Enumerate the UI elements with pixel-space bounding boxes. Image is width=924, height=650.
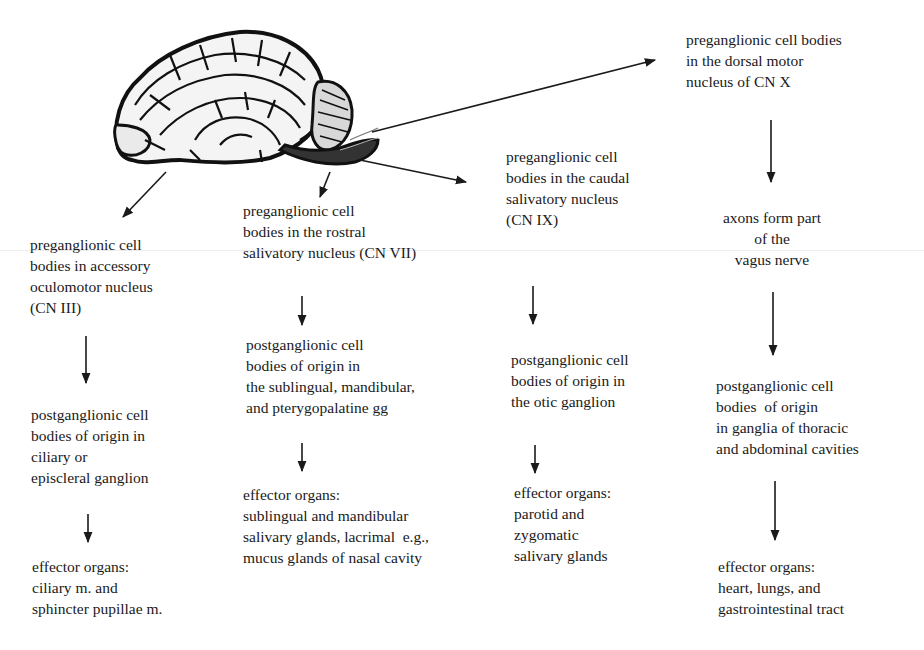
cn-iii-postganglionic-text: postganglionic cell bodies of origin in … [31, 404, 149, 488]
arrow-brain-to-cn-vii [320, 172, 330, 197]
cn-x-effector-text: effector organs: heart, lungs, and gastr… [718, 556, 844, 619]
diagram-graphics [0, 0, 924, 650]
cn-x-postganglionic-text: postganglionic cell bodies of origin in … [716, 375, 859, 459]
cn-ix-preganglionic-text: preganglionic cell bodies in the caudal … [506, 146, 630, 230]
cn-vii-postganglionic-text: postganglionic cell bodies of origin in … [246, 334, 415, 418]
arrow-brain-to-cn-iii [123, 172, 166, 217]
cn-iii-preganglionic-text: preganglionic cell bodies in accessory o… [30, 234, 153, 318]
cn-x-intermediate-text: axons form part of the vagus nerve [712, 207, 832, 270]
cn-iii-effector-text: effector organs: ciliary m. and sphincte… [32, 556, 162, 619]
cn-ix-postganglionic-text: postganglionic cell bodies of origin in … [511, 349, 629, 412]
cn-x-preganglionic-text: preganglionic cell bodies in the dorsal … [686, 29, 842, 92]
cn-vii-effector-text: effector organs: sublingual and mandibul… [243, 484, 429, 568]
arrow-brain-to-cn-x [372, 60, 655, 132]
cn-vii-preganglionic-text: preganglionic cell bodies in the rostral… [243, 200, 416, 263]
arrow-brain-to-cn-ix [360, 160, 466, 182]
arrows [86, 60, 775, 542]
brain-illustration-icon [115, 32, 378, 164]
cn-ix-effector-text: effector organs: parotid and zygomatic s… [514, 482, 611, 566]
